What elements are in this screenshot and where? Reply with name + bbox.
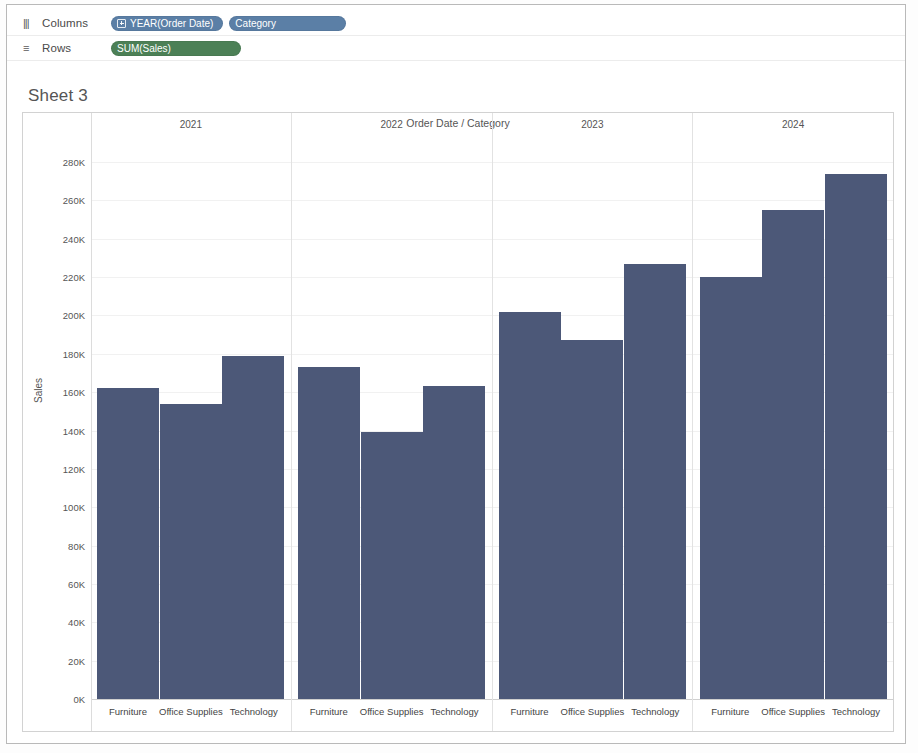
y-axis-tick-label: 0K [73, 694, 85, 705]
rows-shelf[interactable]: ≡ Rows SUM(Sales) [7, 36, 905, 61]
screenshot-page: ||| Columns YEAR(Order Date) Category ≡ … [0, 0, 918, 753]
y-axis-tick-label: 280K [63, 157, 85, 168]
y-axis-tick-label: 160K [63, 387, 85, 398]
year-panel: 2021FurnitureOffice SuppliesTechnology [91, 113, 292, 731]
category-label: Technology [424, 706, 486, 717]
y-axis-tick-label: 100K [63, 502, 85, 513]
bar-group [292, 162, 492, 699]
bar-group [493, 162, 693, 699]
pill-sum-sales-label: SUM(Sales) [117, 43, 171, 54]
expand-plus-icon [117, 19, 126, 28]
y-axis-tick-label: 180K [63, 348, 85, 359]
sheet-title: Sheet 3 [28, 86, 88, 106]
y-axis-tick-label: 260K [63, 195, 85, 206]
bar-slot [762, 162, 825, 699]
year-panel: 2023FurnitureOffice SuppliesTechnology [493, 113, 694, 731]
category-label: Furniture [97, 706, 159, 717]
bar-slot [360, 162, 423, 699]
columns-shelf[interactable]: ||| Columns YEAR(Order Date) Category [7, 11, 905, 36]
category-label: Office Supplies [360, 706, 424, 717]
y-axis-tick-label: 80K [68, 540, 85, 551]
bar-slot [499, 162, 562, 699]
bar-slot [97, 162, 160, 699]
y-axis-tick-label: 220K [63, 272, 85, 283]
y-axis-tick-label: 120K [63, 463, 85, 474]
bar-slot [160, 162, 223, 699]
category-label: Technology [825, 706, 887, 717]
category-label: Furniture [499, 706, 561, 717]
y-axis: 280K260K240K220K200K180K160K140K120K100K… [23, 113, 91, 731]
y-axis-tick-label: 20K [68, 655, 85, 666]
year-panel: 2022FurnitureOffice SuppliesTechnology [292, 113, 493, 731]
y-axis-tick-label: 60K [68, 578, 85, 589]
pill-category-label: Category [235, 18, 276, 29]
bar-mark[interactable] [160, 404, 222, 699]
category-label: Technology [223, 706, 285, 717]
category-axis-labels: FurnitureOffice SuppliesTechnology [493, 706, 693, 717]
panel-year-label: 2023 [493, 119, 693, 130]
shelf-area: ||| Columns YEAR(Order Date) Category ≡ … [7, 5, 905, 65]
rows-icon: ≡ [23, 43, 36, 54]
bar-slot [423, 162, 486, 699]
bar-slot [561, 162, 624, 699]
year-panel: 2024FurnitureOffice SuppliesTechnology [693, 113, 893, 731]
category-label: Office Supplies [761, 706, 825, 717]
category-label: Furniture [699, 706, 761, 717]
dimension-bars-icon [7, 5, 21, 14]
viz-canvas[interactable]: Order Date / Category Sales 280K260K240K… [22, 112, 894, 732]
y-axis-tick-label: 40K [68, 617, 85, 628]
bar-mark[interactable] [97, 388, 159, 699]
bar-mark[interactable] [624, 264, 686, 699]
bar-mark[interactable] [825, 174, 887, 699]
bar-slot [222, 162, 285, 699]
category-label: Technology [624, 706, 686, 717]
panel-year-label: 2022 [292, 119, 492, 130]
rows-shelf-label: ≡ Rows [23, 42, 111, 54]
bar-mark[interactable] [423, 386, 485, 699]
category-axis-labels: FurnitureOffice SuppliesTechnology [693, 706, 893, 717]
bar-group [91, 162, 291, 699]
panel-year-label: 2021 [91, 119, 291, 130]
pill-sum-sales[interactable]: SUM(Sales) [111, 41, 241, 56]
y-axis-tick-label: 140K [63, 425, 85, 436]
category-axis-labels: FurnitureOffice SuppliesTechnology [292, 706, 492, 717]
bar-mark[interactable] [499, 312, 561, 699]
bar-mark[interactable] [361, 432, 423, 699]
year-panels: 2021FurnitureOffice SuppliesTechnology20… [91, 113, 893, 731]
category-axis-labels: FurnitureOffice SuppliesTechnology [91, 706, 291, 717]
bar-mark[interactable] [298, 367, 360, 699]
pill-year-order-date-label: YEAR(Order Date) [130, 18, 213, 29]
bar-mark[interactable] [700, 277, 762, 699]
pill-category[interactable]: Category [229, 16, 346, 31]
category-label: Office Supplies [159, 706, 223, 717]
y-axis-tick-label: 200K [63, 310, 85, 321]
plot-area: Sales 280K260K240K220K200K180K160K140K12… [23, 113, 893, 731]
category-label: Office Supplies [561, 706, 625, 717]
pill-year-order-date[interactable]: YEAR(Order Date) [111, 16, 223, 31]
columns-shelf-label: ||| Columns [23, 17, 111, 29]
columns-icon: ||| [23, 18, 36, 29]
bar-mark[interactable] [762, 210, 824, 699]
bar-slot [298, 162, 361, 699]
bar-mark[interactable] [561, 340, 623, 699]
bar-mark[interactable] [222, 356, 284, 699]
bar-slot [824, 162, 887, 699]
category-label: Furniture [298, 706, 360, 717]
bar-slot [624, 162, 687, 699]
y-axis-tick-label: 240K [63, 233, 85, 244]
bar-slot [699, 162, 762, 699]
rows-shelf-text: Rows [42, 42, 71, 54]
bar-group [693, 162, 893, 699]
panel-year-label: 2024 [693, 119, 893, 130]
columns-shelf-text: Columns [42, 17, 88, 29]
